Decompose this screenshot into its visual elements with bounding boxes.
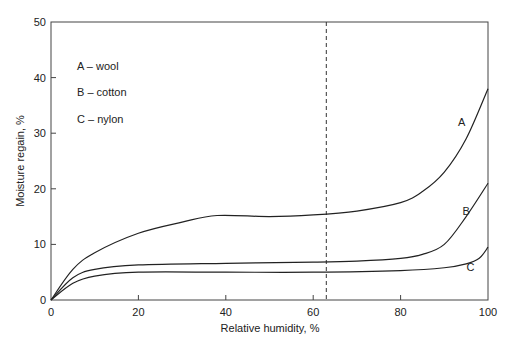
x-tick-label: 100 <box>479 306 497 318</box>
legend-item-c: C – nylon <box>77 113 123 125</box>
y-tick-label: 40 <box>34 72 46 84</box>
y-tick-label: 20 <box>34 183 46 195</box>
legend: A – wool B – cotton C – nylon <box>77 60 127 125</box>
x-axis-label: Relative humidity, % <box>221 322 320 334</box>
curve-label-b: B <box>462 205 469 217</box>
curve-label-a: A <box>458 116 466 128</box>
x-tick-label: 40 <box>220 306 232 318</box>
y-tick-label: 30 <box>34 127 46 139</box>
x-axis: 020406080100 <box>48 295 497 318</box>
y-tick-label: 10 <box>34 238 46 250</box>
y-axis-label: Moisture regain, % <box>14 115 26 207</box>
legend-item-a: A – wool <box>77 60 119 72</box>
x-tick-label: 20 <box>132 306 144 318</box>
y-tick-label: 50 <box>34 16 46 28</box>
x-tick-label: 0 <box>48 306 54 318</box>
moisture-regain-chart: 01020304050 020406080100 ABC A – wool B … <box>0 0 518 345</box>
x-tick-label: 60 <box>307 306 319 318</box>
x-tick-label: 80 <box>394 306 406 318</box>
y-axis: 01020304050 <box>34 16 56 306</box>
y-tick-label: 0 <box>40 294 46 306</box>
curve-c <box>51 247 488 300</box>
curve-label-c: C <box>467 261 475 273</box>
legend-item-b: B – cotton <box>77 86 127 98</box>
